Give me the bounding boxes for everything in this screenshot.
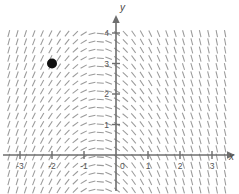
slope-mark	[40, 105, 44, 111]
slope-mark	[65, 187, 69, 193]
slope-mark	[166, 47, 168, 54]
slope-mark	[216, 178, 217, 185]
slope-mark	[41, 179, 44, 185]
slope-mark	[65, 97, 70, 102]
slope-mark	[183, 47, 185, 54]
slope-mark	[24, 72, 27, 79]
slope-mark	[32, 121, 35, 127]
slope-mark	[149, 55, 152, 61]
slope-mark	[8, 170, 10, 177]
slope-mark	[41, 162, 44, 168]
slope-mark	[191, 137, 193, 144]
slope-mark	[57, 72, 61, 78]
slope-mark	[97, 58, 104, 59]
slope-mark	[65, 179, 69, 185]
slope-mark	[65, 39, 69, 44]
slope-mark	[16, 129, 18, 136]
slope-mark	[73, 130, 79, 134]
slope-mark	[166, 39, 168, 46]
slope-mark	[174, 187, 176, 194]
slope-mark	[157, 105, 160, 111]
slope-mark	[97, 173, 104, 174]
slope-mark	[131, 146, 135, 152]
slope-mark	[81, 90, 87, 93]
slope-mark	[114, 89, 120, 93]
slope-mark	[8, 63, 10, 70]
slope-mark	[216, 162, 218, 169]
slope-mark	[24, 129, 27, 135]
slope-mark	[208, 137, 210, 144]
slope-mark	[89, 41, 96, 43]
slope-mark	[199, 146, 201, 153]
slope-mark	[157, 187, 160, 194]
slope-mark	[199, 55, 201, 62]
slope-mark	[216, 187, 217, 194]
slope-mark	[24, 146, 27, 153]
slope-mark	[57, 171, 61, 177]
slope-mark	[24, 80, 27, 86]
slope-mark	[89, 57, 96, 59]
slope-mark	[157, 47, 160, 53]
slope-mark	[40, 138, 43, 144]
slope-mark	[81, 48, 87, 51]
slope-mark	[114, 172, 120, 176]
slope-mark	[97, 182, 104, 183]
slope-mark	[216, 137, 218, 144]
data-points	[47, 59, 57, 69]
slope-mark	[8, 96, 10, 103]
slope-mark	[114, 73, 120, 77]
slope-mark	[73, 188, 78, 193]
slope-mark	[24, 137, 27, 144]
slope-mark	[166, 72, 169, 78]
slope-mark	[16, 39, 18, 46]
slope-mark	[32, 72, 35, 78]
slope-mark	[105, 164, 112, 167]
slope-mark	[174, 121, 177, 127]
slope-mark	[114, 114, 120, 117]
slope-mark	[114, 147, 120, 151]
slope-mark	[191, 178, 193, 185]
slope-mark	[224, 129, 226, 136]
slope-mark	[157, 129, 160, 135]
slope-mark	[24, 88, 27, 94]
slope-mark	[199, 71, 201, 78]
slope-mark	[65, 138, 70, 143]
slope-mark	[140, 121, 144, 127]
slope-mark	[16, 80, 18, 87]
slope-mark	[73, 171, 78, 176]
slope-mark	[131, 64, 135, 70]
slope-mark	[182, 88, 184, 95]
slope-mark	[157, 162, 160, 168]
slope-mark	[166, 146, 169, 152]
slope-mark	[131, 122, 136, 127]
slope-mark	[140, 97, 144, 103]
slope-mark	[114, 139, 120, 143]
slope-mark	[41, 47, 44, 53]
slope-mark	[32, 137, 35, 143]
slope-mark	[81, 32, 87, 36]
slope-mark	[123, 114, 128, 118]
slope-mark	[89, 82, 96, 83]
slope-mark	[199, 121, 201, 128]
slope-field-plot: -3-2-101231234 x y	[0, 0, 239, 194]
slope-mark	[199, 113, 201, 120]
slope-mark	[224, 178, 225, 185]
slope-mark	[182, 71, 184, 78]
slope-mark	[191, 30, 193, 37]
slope-mark	[157, 113, 160, 119]
slope-mark	[174, 146, 176, 153]
slope-mark	[72, 106, 78, 110]
slope-mark	[16, 63, 18, 70]
slope-mark	[140, 146, 144, 152]
slope-mark	[105, 189, 111, 192]
slope-mark	[16, 71, 18, 78]
slope-mark	[199, 104, 201, 111]
slope-mark	[208, 88, 210, 95]
slope-mark	[8, 129, 10, 136]
slope-mark	[64, 105, 69, 110]
slope-mark	[41, 170, 44, 176]
slope-mark	[183, 187, 185, 194]
slope-mark	[182, 113, 185, 120]
slope-mark	[65, 114, 70, 119]
slope-mark	[191, 113, 193, 120]
